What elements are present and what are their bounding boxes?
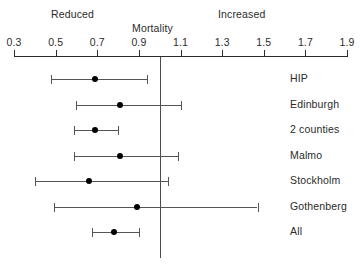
point-estimate-marker bbox=[134, 204, 140, 210]
x-axis-tick bbox=[139, 50, 140, 57]
x-axis-tick bbox=[97, 50, 98, 57]
ci-cap-upper bbox=[181, 101, 182, 110]
study-label: HIP bbox=[290, 72, 308, 84]
ci-cap-lower bbox=[35, 177, 36, 186]
ci-cap-upper bbox=[139, 228, 140, 237]
study-label: Stockholm bbox=[290, 174, 340, 186]
x-axis-tick bbox=[222, 50, 223, 57]
forest-plot-row: All bbox=[0, 221, 361, 245]
point-estimate-marker bbox=[117, 153, 123, 159]
x-axis-tick-label: 1.9 bbox=[340, 36, 355, 48]
confidence-interval-line bbox=[74, 156, 178, 157]
confidence-interval-line bbox=[51, 79, 147, 80]
study-label: All bbox=[290, 225, 302, 237]
forest-plot-row: Gothenberg bbox=[0, 196, 361, 220]
ci-cap-upper bbox=[118, 126, 119, 135]
x-axis-tick-label: 1.7 bbox=[298, 36, 313, 48]
x-axis-tick bbox=[305, 50, 306, 57]
x-axis-tick-label: 0.5 bbox=[48, 36, 63, 48]
x-axis-tick bbox=[14, 50, 15, 57]
forest-plot-row: Malmo bbox=[0, 145, 361, 169]
ci-cap-lower bbox=[54, 203, 55, 212]
point-estimate-marker bbox=[86, 178, 92, 184]
x-axis-tick-label: 1.3 bbox=[215, 36, 230, 48]
point-estimate-marker bbox=[117, 102, 123, 108]
x-axis-tick-label: 0.9 bbox=[131, 36, 146, 48]
plot-area: 0.30.50.70.91.11.31.51.71.9 HIPEdinburgh… bbox=[0, 0, 361, 275]
study-label: Gothenberg bbox=[290, 200, 347, 212]
forest-plot-row: 2 counties bbox=[0, 119, 361, 143]
x-axis-tick bbox=[181, 50, 182, 57]
x-axis-tick-label: 1.5 bbox=[256, 36, 271, 48]
point-estimate-marker bbox=[92, 127, 98, 133]
confidence-interval-line bbox=[76, 105, 180, 106]
study-label: Malmo bbox=[290, 149, 322, 161]
ci-cap-upper bbox=[147, 75, 148, 84]
point-estimate-marker bbox=[92, 76, 98, 82]
x-axis-tick bbox=[347, 50, 348, 57]
ci-cap-lower bbox=[92, 228, 93, 237]
forest-plot-row: Edinburgh bbox=[0, 94, 361, 118]
ci-cap-lower bbox=[76, 101, 77, 110]
study-label: Edinburgh bbox=[290, 98, 339, 110]
confidence-interval-line bbox=[35, 181, 168, 182]
forest-plot: Reduced Mortality Increased 0.30.50.70.9… bbox=[0, 0, 361, 275]
x-axis-tick bbox=[264, 50, 265, 57]
ci-cap-lower bbox=[51, 75, 52, 84]
forest-plot-row: Stockholm bbox=[0, 170, 361, 194]
confidence-interval-line bbox=[54, 207, 258, 208]
ci-cap-lower bbox=[74, 126, 75, 135]
x-axis-tick bbox=[56, 50, 57, 57]
forest-plot-row: HIP bbox=[0, 68, 361, 92]
ci-cap-upper bbox=[258, 203, 259, 212]
ci-cap-lower bbox=[74, 152, 75, 161]
x-axis-tick-label: 0.7 bbox=[90, 36, 105, 48]
x-axis-tick-label: 1.1 bbox=[173, 36, 188, 48]
ci-cap-upper bbox=[168, 177, 169, 186]
point-estimate-marker bbox=[111, 229, 117, 235]
study-label: 2 counties bbox=[290, 123, 339, 135]
x-axis-tick-label: 0.3 bbox=[7, 36, 22, 48]
ci-cap-upper bbox=[178, 152, 179, 161]
